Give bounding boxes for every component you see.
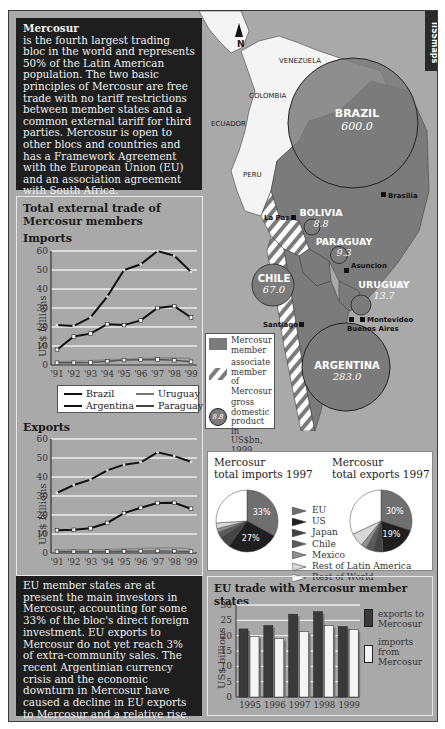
bar-exports (264, 626, 273, 697)
city-label: Santiago (263, 321, 298, 329)
wedge-icon (292, 540, 306, 548)
pie-legend-label: US (312, 516, 326, 527)
member-bolivia: BOLIVIA8.8 (291, 207, 351, 229)
imports-label: Imports (23, 232, 72, 245)
city-label: Montevideo (367, 316, 413, 324)
line-legend: Brazil Uruguay Argentina Paraguay (57, 385, 199, 413)
series-argentina (57, 503, 191, 530)
pie-legend-label: Japan (312, 527, 338, 538)
north-label: N (237, 39, 245, 49)
x-tick: '96 (134, 369, 147, 379)
bar-exports (239, 629, 248, 697)
y-tick: 0 (42, 360, 48, 370)
pie-legend-item: Chile (292, 539, 411, 550)
pie-legend-item: Mexico (292, 550, 411, 561)
gdp-circle-sample: 8.8 (209, 408, 227, 426)
wedge-icon (292, 551, 306, 559)
legend-paraguay: Paraguay (158, 400, 203, 411)
member-swatch (209, 338, 227, 350)
y-tick: 40 (37, 284, 49, 294)
wedge-icon (292, 529, 306, 537)
x-tick: '96 (134, 557, 147, 567)
x-tick: '95 (117, 557, 130, 567)
pie-label: 27% (242, 534, 260, 543)
eu-trade-bar-chart: 05101520253019951996199719981999 (208, 597, 368, 715)
bar-exports (338, 626, 347, 697)
line-panel-title-1: Total external trade of (23, 202, 161, 215)
x-tick: '95 (117, 369, 130, 379)
country-label: PERU (243, 171, 262, 179)
outro-body: EU member states are at present the main… (23, 579, 189, 722)
x-tick: '94 (101, 369, 114, 379)
city-label: Asuncion (351, 262, 387, 270)
y-tick: 50 (37, 265, 49, 275)
associate-swatch (209, 368, 227, 380)
member-brazil: BRAZIL600.0 (317, 107, 397, 133)
pie-legend-label: Mexico (312, 550, 345, 561)
bar-imports (349, 630, 358, 697)
legend-exports-line1: exports to (378, 609, 424, 619)
intro-body: is the fourth largest trading bloc in th… (23, 34, 195, 197)
x-tick: '99 (184, 557, 197, 567)
exports-y-title: US$ billions (37, 483, 48, 545)
x-tick: 1997 (289, 700, 311, 710)
x-tick: '92 (67, 369, 80, 379)
legend-exports-line2: Mercosur (378, 619, 424, 629)
publisher-badge: IISSmaps (425, 11, 438, 71)
pie-charts-panel: Mercosur total imports 1997 Mercosur tot… (207, 451, 433, 571)
pie-legend-item: EU (292, 505, 411, 516)
y-tick: 50 (37, 453, 49, 463)
infographic-frame: IISSmaps N VENEZUELA COLOMBIA ECUADOR PE… (8, 10, 438, 722)
member-chile: CHILE67.0 (249, 273, 299, 295)
pie-legend: EUUSJapanChileMexicoRest of Latin Americ… (292, 505, 411, 583)
member-paraguay: PARAGUAY9.3 (309, 236, 379, 258)
map-legend: Mercosur member associate member of Merc… (205, 333, 275, 429)
x-tick: '93 (84, 557, 97, 567)
wedge-icon (292, 518, 306, 526)
y-tick: 60 (37, 434, 49, 444)
x-tick: 1995 (239, 700, 261, 710)
pie-label: 33% (253, 508, 271, 517)
bar-imports (324, 626, 333, 697)
bar-y-title: US$ billions (216, 627, 227, 689)
x-tick: 1999 (338, 700, 360, 710)
legend-imports-line1: imports (378, 637, 422, 647)
wedge-icon (292, 563, 306, 571)
y-tick: 0 (42, 548, 48, 558)
bar-imports (250, 636, 259, 697)
country-label: VENEZUELA (279, 57, 321, 65)
city-label: Brasilia (388, 192, 418, 200)
x-tick: '93 (84, 369, 97, 379)
country-label: ECUADOR (211, 120, 246, 128)
legend-associate-label: associate member of Mercosur (231, 358, 272, 396)
legend-uruguay: Uruguay (158, 388, 200, 399)
city-label: La Paz (264, 214, 289, 222)
x-tick: '98 (168, 557, 181, 567)
bar-imports (300, 632, 309, 697)
x-tick: '91 (50, 369, 63, 379)
x-tick: '91 (50, 557, 63, 567)
x-tick: '99 (184, 369, 197, 379)
x-tick: '92 (67, 557, 80, 567)
legend-gdp-label: gross domestic product in US$bn, 1999 (231, 398, 271, 455)
x-tick: '97 (151, 369, 164, 379)
imports-pie-chart: 33%27% (212, 486, 282, 556)
series-argentina (57, 306, 191, 350)
outro-text-box: EU member states are at present the main… (16, 576, 202, 716)
pie-legend-label: Rest of Latin America (312, 561, 411, 572)
y-tick: 0 (226, 692, 232, 702)
city-label: Buenos Aires (347, 325, 399, 333)
x-tick: '94 (101, 557, 114, 567)
x-tick: 1996 (264, 700, 286, 710)
member-uruguay: URUGUAY13.7 (349, 279, 419, 301)
bar-exports (313, 612, 322, 697)
line-panel-title-2: Mercosur members (23, 215, 143, 228)
pie-legend-item: Rest of Latin America (292, 561, 411, 572)
x-tick: '98 (168, 369, 181, 379)
imports-pie-title-2: total imports 1997 (214, 468, 313, 481)
x-tick: 1998 (314, 700, 336, 710)
bar-imports (275, 638, 284, 697)
bar-legend: exports toMercosur importsfromMercosur (364, 609, 424, 667)
y-tick: 5 (226, 677, 232, 687)
legend-imports-line2: from (378, 647, 422, 657)
